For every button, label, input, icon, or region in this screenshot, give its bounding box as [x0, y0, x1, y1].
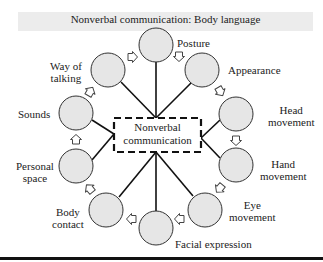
- center-label: Nonverbal communication: [114, 121, 201, 147]
- circle-facial-expression: [139, 211, 173, 245]
- label-personal-space: Personal space: [16, 160, 54, 184]
- center-label-line1: Nonverbal: [114, 121, 201, 134]
- arrow-icon: [231, 136, 242, 146]
- arrow-icon: [213, 85, 227, 99]
- label-appearance: Appearance: [228, 64, 281, 76]
- arrow-icon: [127, 214, 137, 225]
- bottom-rule: [0, 257, 323, 260]
- connector-sounds: [92, 120, 114, 134]
- circle-posture: [139, 28, 173, 62]
- label-sounds: Sounds: [18, 108, 50, 120]
- circle-appearance: [185, 53, 219, 87]
- circle-way-of-talking: [91, 53, 125, 87]
- connector-way-of-talking: [121, 82, 156, 118]
- label-way-of-talking: Way of talking: [50, 60, 82, 84]
- connector-head-movement: [201, 120, 220, 138]
- label-hand-movement: Hand movement: [260, 158, 306, 182]
- circle-personal-space: [59, 149, 93, 183]
- label-head-movement: Head movement: [268, 104, 314, 128]
- circle-body-contact: [89, 193, 123, 227]
- arrow-icon: [71, 135, 82, 145]
- arrow-icon: [128, 52, 138, 63]
- arrow-icon: [174, 52, 185, 62]
- circle-hand-movement: [219, 148, 253, 182]
- label-eye-movement: Eye movement: [229, 199, 275, 223]
- circle-head-movement: [219, 97, 253, 131]
- arrow-icon: [175, 214, 185, 225]
- circle-sounds: [59, 96, 93, 130]
- connector-personal-space: [92, 134, 114, 160]
- label-posture: Posture: [177, 37, 210, 49]
- connector-body-contact: [119, 152, 156, 197]
- label-body-contact: Body contact: [52, 206, 84, 230]
- center-label-line2: communication: [114, 134, 201, 147]
- arrow-icon: [82, 181, 97, 195]
- label-facial-expression: Facial expression: [175, 238, 252, 250]
- circle-eye-movement: [188, 193, 222, 227]
- arrow-icon: [212, 181, 227, 195]
- connector-hand-movement: [201, 138, 220, 158]
- arrow-icon: [83, 84, 97, 98]
- connector-appearance: [156, 83, 191, 118]
- connector-eye-movement: [156, 152, 193, 196]
